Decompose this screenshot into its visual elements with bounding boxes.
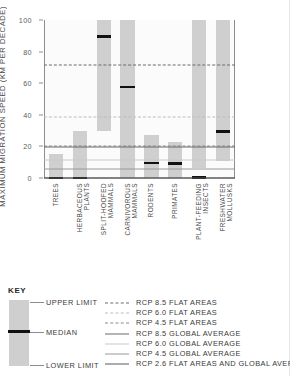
y-axis-tick-mark bbox=[39, 51, 43, 52]
bar-median-marker bbox=[144, 162, 158, 165]
bar-median-marker bbox=[120, 86, 134, 89]
reference-line-dashed bbox=[44, 116, 235, 117]
legend-line-swatch bbox=[105, 343, 129, 344]
x-axis-label: SPLIT-HOOFED MAMMALS bbox=[100, 183, 115, 235]
legend-line-swatch bbox=[105, 313, 129, 314]
axis-baseline bbox=[44, 178, 235, 179]
x-axis-label: PRIMATES bbox=[171, 183, 178, 219]
chart-plot-area: 020406080100 TREESHERBACEOUS PLANTSSPLIT… bbox=[44, 20, 235, 178]
x-axis-label: PLANT-FEEDING INSECTS bbox=[195, 183, 210, 240]
y-axis-tick-label: 80 bbox=[2, 47, 32, 56]
key-label-lower-limit: LOWER LIMIT bbox=[46, 361, 99, 370]
key-label-upper-limit: UPPER LIMIT bbox=[46, 298, 97, 307]
x-axis-label: CARNIVOROUS MAMMALS bbox=[124, 183, 139, 236]
key-label-median: MEDIAN bbox=[46, 328, 77, 337]
legend-item-label: RCP 8.5 GLOBAL AVERAGE bbox=[136, 329, 241, 338]
x-axis-label: HERBACEOUS PLANTS bbox=[76, 183, 91, 232]
bar-range bbox=[49, 154, 63, 178]
reference-line-solid bbox=[44, 146, 235, 147]
bar-range bbox=[73, 131, 87, 177]
reference-line-dashed bbox=[44, 65, 235, 66]
legend-line-swatch bbox=[105, 353, 129, 354]
bar-range bbox=[144, 135, 158, 178]
reference-line-solid bbox=[44, 160, 235, 161]
legend-item-label: RCP 2.6 FLAT AREAS AND GLOBAL AVERAGE bbox=[136, 359, 290, 368]
legend-item-label: RCP 6.0 GLOBAL AVERAGE bbox=[136, 339, 241, 348]
x-axis-label: RODENTS bbox=[147, 183, 154, 217]
y-axis-tick-mark bbox=[39, 114, 43, 115]
legend-line-swatch bbox=[105, 323, 129, 324]
key-panel: KEY UPPER LIMIT MEDIAN LOWER LIMIT RCP 8… bbox=[8, 286, 286, 295]
key-tick-median bbox=[30, 332, 44, 333]
key-tick-lower bbox=[30, 365, 44, 366]
legend-item-label: RCP 6.0 FLAT AREAS bbox=[136, 308, 217, 317]
y-axis-tick-label: 60 bbox=[2, 79, 32, 88]
key-range-swatch bbox=[9, 300, 29, 366]
legend-line-swatch bbox=[105, 303, 129, 304]
bar-range bbox=[120, 20, 134, 178]
legend-item-label: RCP 4.5 GLOBAL AVERAGE bbox=[136, 349, 241, 358]
y-axis-tick-mark bbox=[39, 146, 43, 147]
key-title: KEY bbox=[8, 286, 286, 295]
legend-item-label: RCP 4.5 FLAT AREAS bbox=[136, 318, 217, 327]
x-axis-label: FRESHWATER MOLLUSKS bbox=[219, 183, 234, 232]
y-axis-tick-label: 100 bbox=[2, 16, 32, 25]
legend-item-label: RCP 8.5 FLAT AREAS bbox=[136, 298, 217, 307]
legend-line-swatch bbox=[105, 364, 129, 365]
reference-line-solid bbox=[44, 169, 235, 170]
key-tick-upper bbox=[30, 302, 44, 303]
bar-median-marker bbox=[97, 35, 111, 38]
bar-median-marker bbox=[168, 162, 182, 165]
y-axis-tick-mark bbox=[39, 20, 43, 21]
y-axis-tick-label: 20 bbox=[2, 142, 32, 151]
y-axis-tick-label: 0 bbox=[2, 174, 32, 183]
bar-range bbox=[216, 20, 230, 161]
x-axis-label: TREES bbox=[52, 183, 59, 207]
y-axis-tick-label: 40 bbox=[2, 110, 32, 119]
legend-line-swatch bbox=[105, 333, 129, 334]
y-axis-tick-mark bbox=[39, 83, 43, 84]
y-axis-right-title: RATE OF CLIMATE ZONE SHIFT BETWEEN 2050 … bbox=[248, 16, 290, 320]
y-axis-tick-mark bbox=[39, 178, 43, 179]
key-median-swatch bbox=[8, 330, 30, 333]
bar-median-marker bbox=[216, 130, 230, 133]
